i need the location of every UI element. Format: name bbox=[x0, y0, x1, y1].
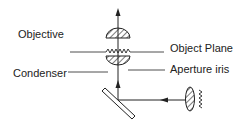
object-plane-label: Object Plane bbox=[170, 42, 233, 54]
light-ray bbox=[118, 98, 186, 103]
objective-lens bbox=[106, 28, 130, 38]
aperture-iris-label: Aperture iris bbox=[170, 63, 229, 75]
condenser-label: Condenser bbox=[13, 67, 67, 79]
lamp-filament-icon bbox=[199, 90, 202, 108]
arrow-up-icon bbox=[116, 8, 121, 16]
collector-lens bbox=[186, 87, 195, 111]
microscope-optics-diagram bbox=[0, 0, 239, 124]
objective-label: Objective bbox=[18, 28, 64, 40]
arrow-left-icon bbox=[160, 98, 168, 103]
object-plane bbox=[70, 49, 164, 53]
condenser-lens bbox=[106, 56, 130, 65]
optical-axis bbox=[116, 8, 121, 101]
arrow-up-icon bbox=[116, 80, 121, 88]
